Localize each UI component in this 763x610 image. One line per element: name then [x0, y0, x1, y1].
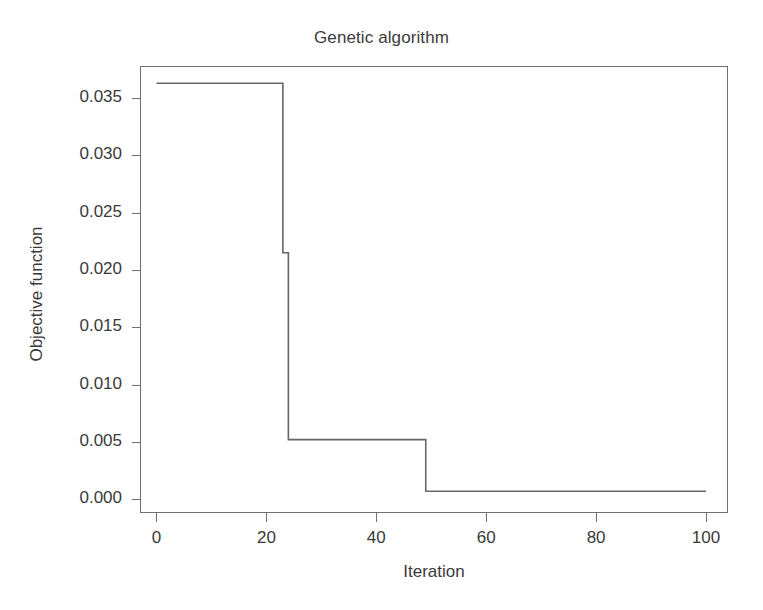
- y-axis-tick-mark: [132, 385, 140, 386]
- y-axis-tick-mark: [132, 442, 140, 443]
- y-axis-tick-mark: [132, 98, 140, 99]
- x-axis-tick-label: 20: [257, 528, 276, 548]
- x-axis-tick-mark: [596, 513, 597, 522]
- y-axis-tick-label: 0.020: [79, 259, 122, 279]
- x-axis-tick-label: 40: [367, 528, 386, 548]
- y-axis-title: Objective function: [27, 174, 47, 414]
- x-axis-tick-label: 0: [152, 528, 161, 548]
- y-axis-tick-mark: [132, 270, 140, 271]
- objective-function-step-line: [156, 83, 706, 491]
- x-axis-tick-label: 100: [692, 528, 720, 548]
- chart-figure: Genetic algorithm 0.0000.0050.0100.0150.…: [0, 0, 763, 610]
- y-axis-tick-label: 0.000: [79, 488, 122, 508]
- x-axis-title: Iteration: [140, 562, 728, 582]
- x-axis-tick-mark: [266, 513, 267, 522]
- y-axis-tick-label: 0.030: [79, 144, 122, 164]
- y-axis-tick-label: 0.010: [79, 374, 122, 394]
- y-axis-tick-label: 0.005: [79, 431, 122, 451]
- y-axis-tick-mark: [132, 499, 140, 500]
- y-axis-tick-label: 0.025: [79, 202, 122, 222]
- y-axis-tick-mark: [132, 213, 140, 214]
- y-axis-tick-label: 0.035: [79, 87, 122, 107]
- y-axis-tick-label: 0.015: [79, 316, 122, 336]
- y-axis-tick-labels: 0.0000.0050.0100.0150.0200.0250.0300.035: [0, 0, 122, 610]
- x-axis-tick-label: 80: [587, 528, 606, 548]
- y-axis-tick-mark: [132, 327, 140, 328]
- x-axis-tick-mark: [376, 513, 377, 522]
- data-line-layer: [140, 66, 728, 513]
- x-axis-tick-mark: [706, 513, 707, 522]
- x-axis-tick-mark: [486, 513, 487, 522]
- x-axis-tick-label: 60: [477, 528, 496, 548]
- y-axis-tick-mark: [132, 155, 140, 156]
- x-axis-tick-mark: [156, 513, 157, 522]
